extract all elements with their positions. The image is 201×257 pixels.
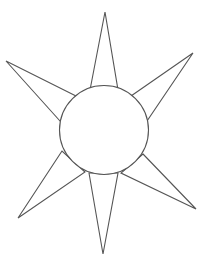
sun-core-circle xyxy=(60,86,149,175)
ray-bottom xyxy=(89,173,118,254)
sun-icon xyxy=(0,0,201,257)
sun-drawing-canvas xyxy=(0,0,201,257)
ray-top xyxy=(90,12,118,90)
